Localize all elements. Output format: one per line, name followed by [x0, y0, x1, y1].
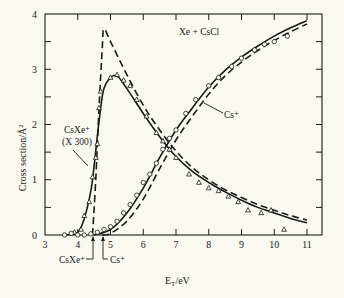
- x-tick-label: 6: [141, 239, 146, 250]
- cs-data-point: [207, 84, 211, 88]
- cs-data-point: [262, 42, 266, 46]
- cs-pointer-line: [204, 103, 223, 113]
- cs-data-point: [148, 172, 152, 176]
- csxe-data-point: [187, 172, 192, 176]
- x-tick-label: 8: [206, 239, 211, 250]
- x-tick-label: 4: [75, 239, 80, 250]
- x-axis-title-unit: /eV: [175, 275, 190, 286]
- x-tick-label: 7: [174, 239, 179, 250]
- cs-data-point: [82, 233, 86, 237]
- cs-data-point: [252, 48, 256, 52]
- chart-title: Xe + CsCl: [179, 27, 220, 37]
- cs-data-point: [272, 39, 276, 43]
- cs-label-text: Cs⁺: [224, 110, 239, 120]
- cs-data-point: [121, 211, 125, 215]
- cs-data-point: [115, 219, 119, 223]
- csxe-scale-text: (X 300): [62, 137, 92, 148]
- threshold-csxe-label: CsXe⁺: [59, 255, 85, 265]
- x-tick-label: 5: [108, 239, 113, 250]
- cs-threshold-arrowhead: [101, 236, 105, 241]
- cs-data-point: [95, 230, 99, 234]
- cs-data-point: [76, 233, 80, 237]
- y-tick-label: 4: [32, 9, 37, 20]
- x-tick-label: 11: [302, 239, 312, 250]
- curves: [65, 21, 307, 235]
- cs-data-point: [69, 231, 73, 235]
- csxe-data-point: [246, 208, 251, 212]
- y-tick-label: 3: [32, 64, 37, 75]
- cs-label: Cs⁺: [204, 103, 239, 120]
- cs-data-point: [193, 97, 197, 101]
- cs-data-point: [154, 161, 158, 165]
- y-tick-label: 2: [32, 119, 37, 130]
- x-tick-label: 3: [43, 239, 48, 250]
- cs-data-point: [184, 111, 188, 115]
- csxe-data-point: [90, 174, 95, 178]
- csxe-data-point: [95, 141, 100, 145]
- csxe-pointer-line: [73, 150, 88, 166]
- csxe-label-text: CsXe⁺: [64, 125, 90, 135]
- cs-data-point: [135, 193, 139, 197]
- threshold-cs-label: Cs⁺: [110, 255, 125, 265]
- csxe-label: CsXe⁺ (X 300): [62, 125, 92, 166]
- cs-data-point: [167, 136, 171, 140]
- csxe-data-point: [206, 185, 211, 189]
- cross-section-chart: 3456789101101234 Xe + CsCl CsXe⁺ (X 300)…: [0, 0, 344, 298]
- csxe-data-point: [121, 78, 126, 82]
- csxe-data-point: [197, 180, 202, 184]
- y-tick-label: 0: [32, 230, 37, 241]
- cs-data-point: [285, 34, 289, 38]
- y-tick-label: 1: [32, 174, 37, 185]
- cs-data-point: [62, 233, 66, 237]
- cs-data-point: [141, 180, 145, 184]
- cs-data-point: [216, 75, 220, 79]
- cs-data-point: [128, 202, 132, 206]
- x-tick-label: 9: [239, 239, 244, 250]
- cs-data-point: [102, 227, 106, 231]
- cs-data-point: [174, 128, 178, 132]
- csxe-data-point: [115, 72, 120, 76]
- csxe-data-point: [282, 227, 287, 231]
- cs-data-point: [108, 225, 112, 229]
- cs-data-point: [161, 147, 165, 151]
- threshold-markers: CsXe⁺ Cs⁺: [59, 236, 125, 265]
- csxe-threshold-arrowhead: [91, 236, 95, 241]
- csxe-data-point: [259, 210, 264, 214]
- csxe-data-point: [98, 89, 103, 93]
- cs-data-point: [89, 232, 93, 236]
- x-axis-title: ET/eV: [165, 275, 191, 288]
- cs-data-point: [239, 56, 243, 60]
- x-tick-label: 10: [269, 239, 279, 250]
- cs-data-point: [229, 64, 233, 68]
- fit-curve-2: [94, 21, 307, 235]
- y-axis-title: Cross section/Å²: [17, 125, 28, 192]
- csxe-data-point: [134, 97, 139, 101]
- model-curve-1: [92, 29, 307, 235]
- csxe-data-point: [87, 199, 92, 203]
